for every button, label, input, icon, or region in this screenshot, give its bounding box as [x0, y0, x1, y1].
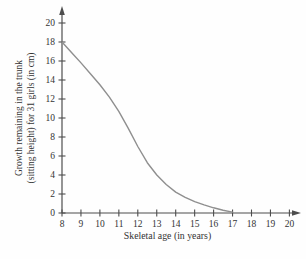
y-axis-arrowhead-icon: [59, 6, 65, 15]
y-axis-label-line2: (sitting height) for 31 girls (in cm): [25, 13, 37, 223]
plot-area: 8910111213141516171819200246810121416182…: [0, 0, 306, 259]
x-tick-label: 18: [247, 219, 257, 229]
x-tick-label: 8: [60, 219, 65, 229]
y-tick-label: 12: [46, 94, 56, 104]
y-tick-label: 10: [46, 113, 56, 123]
y-tick-label: 16: [46, 56, 56, 66]
x-tick-label: 13: [152, 219, 162, 229]
y-tick-label: 6: [50, 151, 55, 161]
x-tick-label: 14: [171, 219, 181, 229]
x-tick-label: 17: [228, 219, 238, 229]
growth-remaining-chart: 8910111213141516171819200246810121416182…: [0, 0, 306, 259]
x-tick-label: 12: [133, 219, 143, 229]
y-tick-label: 0: [50, 208, 55, 218]
x-tick-label: 20: [285, 219, 295, 229]
x-tick-label: 16: [209, 219, 219, 229]
x-tick-label: 9: [79, 219, 84, 229]
growth-remaining-curve: [62, 42, 233, 212]
y-tick-label: 2: [50, 189, 55, 199]
y-tick-label: 8: [50, 132, 55, 142]
x-tick-label: 11: [114, 219, 123, 229]
y-tick-label: 18: [46, 37, 56, 47]
y-axis-label: Growth remaining in the trunk (sitting h…: [13, 13, 39, 223]
x-axis-label: Skeletal age (in years): [110, 230, 225, 241]
y-axis-label-line1: Growth remaining in the trunk: [13, 13, 25, 223]
y-tick-label: 20: [46, 18, 56, 28]
x-tick-label: 19: [266, 219, 276, 229]
x-tick-label: 15: [190, 219, 200, 229]
y-tick-label: 14: [46, 75, 56, 85]
y-tick-label: 4: [50, 170, 55, 180]
x-axis-arrowhead-icon: [292, 210, 301, 216]
x-tick-label: 10: [95, 219, 105, 229]
